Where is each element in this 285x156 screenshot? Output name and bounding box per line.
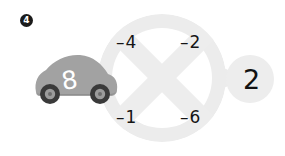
wheel-label-bottom-left: –1 bbox=[116, 109, 137, 126]
car-rear-hub-center bbox=[48, 92, 52, 96]
problem-number-badge: 4 bbox=[20, 14, 33, 27]
beetle-car-icon: 8 bbox=[30, 52, 120, 108]
wheel-label-bottom-right: –6 bbox=[180, 109, 201, 126]
car-rear-wheel bbox=[40, 84, 60, 104]
wheel-label-top-right: –2 bbox=[180, 34, 201, 51]
answer-bubble-value: 2 bbox=[226, 55, 274, 103]
car-front-hub-center bbox=[98, 92, 102, 96]
answer-bubble-icon: 2 bbox=[226, 55, 274, 103]
car-graphic-svg: 8 bbox=[30, 52, 120, 108]
car-front-wheel bbox=[90, 84, 110, 104]
wheel-label-top-left: –4 bbox=[116, 34, 137, 51]
worksheet-problem-container: 4 –4 –2 –1 –6 2 bbox=[0, 0, 285, 156]
